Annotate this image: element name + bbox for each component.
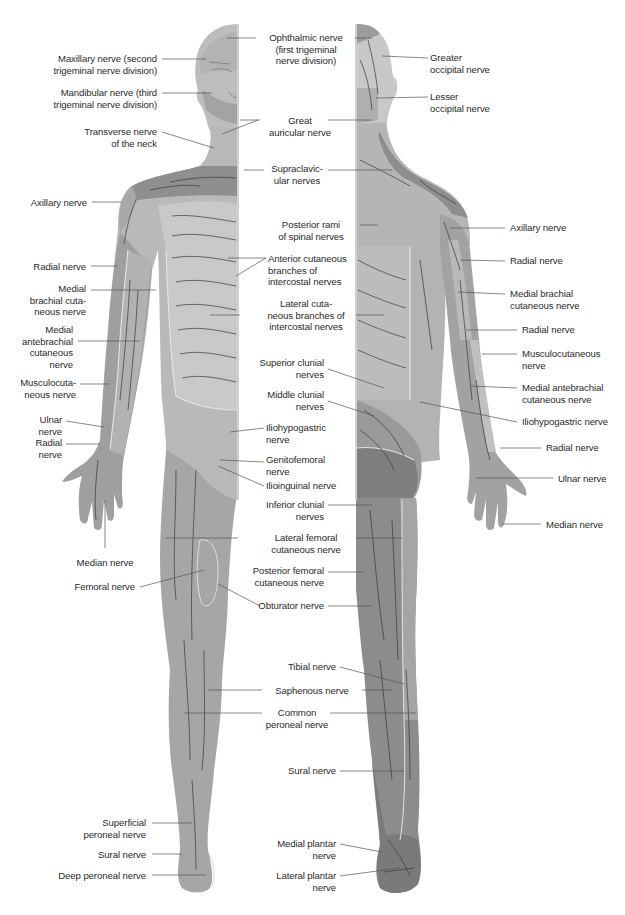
- label-inferior-clunial-nerves: Inferior clunial nerves: [266, 499, 324, 522]
- label-iliohypogastric-nerve-posterior: Iliohypogastric nerve: [522, 416, 608, 428]
- label-lateral-plantar-nerve: Lateral plantar nerve: [276, 870, 336, 893]
- label-median-nerve-posterior: Median nerve: [546, 519, 603, 531]
- label-posterior-femoral-cutaneous-nerve: Posterior femoral cutaneous nerve: [253, 565, 324, 588]
- label-great-auricular-nerve: Great auricular nerve: [262, 115, 338, 138]
- label-musculocutaneous-posterior: Musculocutaneous nerve: [522, 348, 600, 371]
- anterior-leg: [160, 450, 238, 893]
- label-transverse-nerve-of-neck: Transverse nerve of the neck: [84, 126, 157, 149]
- anterior-neck: [200, 126, 238, 166]
- label-middle-clunial-nerves: Middle clunial nerves: [267, 389, 324, 412]
- label-lateral-cutaneous-branches: Lateral cuta- neous branches of intercos…: [256, 298, 356, 333]
- label-superior-clunial-nerves: Superior clunial nerves: [259, 357, 324, 380]
- label-sural-nerve-anterior: Sural nerve: [98, 849, 146, 861]
- label-radial-nerve-anterior-2: Radial nerve: [35, 437, 62, 460]
- label-femoral-nerve: Femoral nerve: [74, 581, 135, 593]
- posterior-body-figure: [356, 24, 527, 893]
- label-axillary-nerve-posterior: Axillary nerve: [510, 222, 566, 234]
- label-musculocutaneous-anterior: Musculocuta- neous nerve: [20, 377, 76, 400]
- label-deep-peroneal-nerve: Deep peroneal nerve: [58, 870, 146, 882]
- label-medial-antebrachial-cutaneous-anterior: Medial antebrachial cutaneous nerve: [22, 324, 73, 370]
- label-supraclavicular-nerves: Supraclavic- ular nerves: [264, 163, 330, 186]
- label-axillary-nerve-anterior: Axillary nerve: [31, 197, 87, 209]
- label-greater-occipital-nerve: Greater occipital nerve: [430, 52, 490, 75]
- label-posterior-rami: Posterior rami of spinal nerves: [264, 219, 358, 242]
- label-lesser-occipital-nerve: Lesser occipital nerve: [430, 91, 490, 114]
- label-maxillary-nerve: Maxillary nerve (second trigeminal nerve…: [53, 53, 157, 76]
- anterior-body-figure: [62, 24, 238, 893]
- label-superficial-peroneal-nerve: Superficial peroneal nerve: [83, 817, 146, 840]
- label-saphenous-nerve: Saphenous nerve: [262, 685, 362, 697]
- label-medial-antebrachial-cutaneous-posterior: Medial antebrachial cutaneous nerve: [522, 382, 603, 405]
- label-radial-nerve-anterior-1: Radial nerve: [33, 261, 86, 273]
- label-radial-nerve-posterior-1: Radial nerve: [510, 255, 563, 267]
- label-lateral-femoral-cutaneous-nerve: Lateral femoral cutaneous nerve: [258, 532, 354, 555]
- label-anterior-cutaneous-branches: Anterior cutaneous branches of intercost…: [268, 253, 347, 288]
- label-medial-plantar-nerve: Medial plantar nerve: [277, 838, 336, 861]
- label-sural-nerve-posterior: Sural nerve: [288, 765, 336, 777]
- label-ulnar-nerve-anterior: Ulnar nerve: [39, 414, 63, 437]
- label-genitofemoral-nerve: Genitofemoral nerve: [266, 454, 325, 477]
- label-radial-nerve-posterior-2: Radial nerve: [522, 324, 575, 336]
- label-medial-brachial-cutaneous-anterior: Medial brachial cuta- neous nerve: [30, 283, 86, 318]
- label-mandibular-nerve: Mandibular nerve (third trigeminal nerve…: [53, 87, 157, 110]
- label-iliohypogastric-nerve-anterior: Iliohypogastric nerve: [266, 422, 326, 445]
- label-ophthalmic-nerve: Ophthalmic nerve (first trigeminal nerve…: [258, 32, 354, 67]
- label-ulnar-nerve-posterior: Ulnar nerve: [558, 473, 607, 485]
- label-medial-brachial-cutaneous-posterior: Medial brachial cutaneous nerve: [510, 288, 579, 311]
- label-median-nerve-anterior: Median nerve: [72, 557, 138, 569]
- label-ilioinguinal-nerve: Ilioinguinal nerve: [266, 480, 336, 492]
- label-obturator-nerve: Obturator nerve: [258, 600, 324, 612]
- label-tibial-nerve: Tibial nerve: [288, 661, 336, 673]
- label-radial-nerve-posterior-3: Radial nerve: [546, 442, 599, 454]
- label-common-peroneal-nerve: Common peroneal nerve: [262, 707, 332, 730]
